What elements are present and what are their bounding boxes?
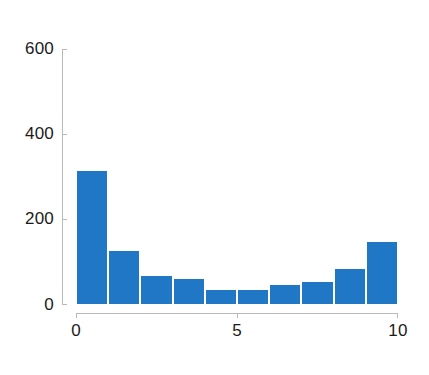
- histogram-bar[interactable]: [269, 285, 301, 304]
- x-axis-tick-label-0: 0: [71, 322, 81, 339]
- histogram-bar[interactable]: [366, 242, 398, 304]
- y-axis-tick-label-200: 200: [25, 210, 54, 227]
- x-axis-tick-label-10: 10: [388, 322, 407, 339]
- x-axis-tick-label-5: 5: [232, 322, 242, 339]
- histogram-bars: [76, 14, 398, 304]
- histogram-bar[interactable]: [237, 290, 269, 304]
- plot-area: [76, 14, 398, 304]
- histogram-bar[interactable]: [334, 269, 366, 304]
- histogram-bar[interactable]: [173, 279, 205, 304]
- y-axis-tick-label-400: 400: [25, 125, 54, 142]
- histogram-bar[interactable]: [76, 171, 108, 304]
- y-axis-line: [62, 49, 63, 305]
- y-axis-tick-200: [62, 219, 67, 220]
- y-axis-tick-label-600: 600: [25, 40, 54, 57]
- histogram-figure: 600 400 200 0 0 5 10: [0, 0, 429, 375]
- histogram-bar[interactable]: [301, 282, 333, 304]
- x-axis-tick-5: [237, 313, 238, 318]
- y-axis-tick-label-0: 0: [44, 296, 54, 313]
- histogram-bar[interactable]: [205, 290, 237, 304]
- y-axis-tick-400: [62, 134, 67, 135]
- histogram-bar[interactable]: [108, 251, 140, 304]
- histogram-bar[interactable]: [140, 276, 172, 304]
